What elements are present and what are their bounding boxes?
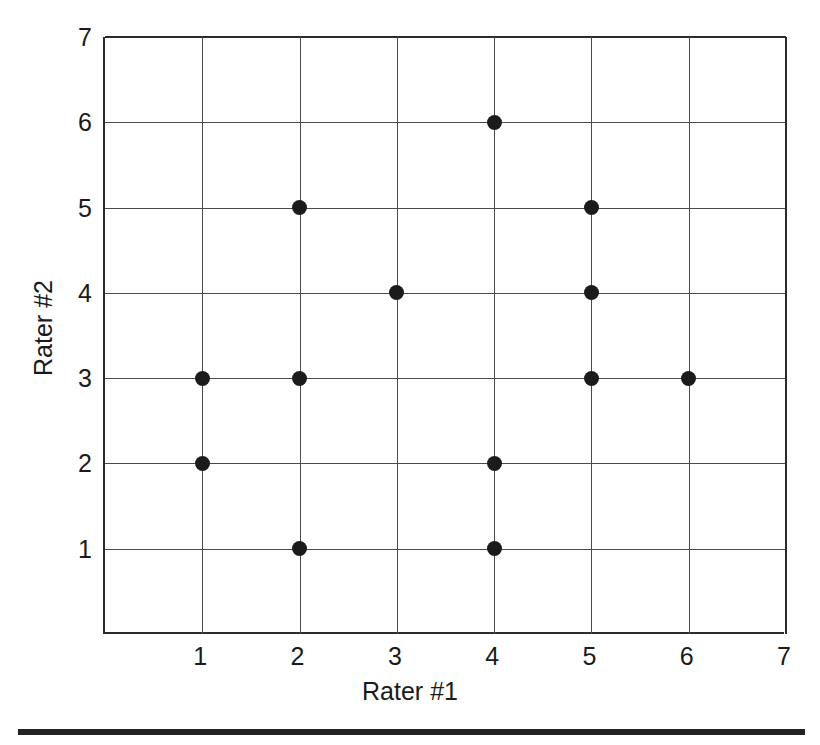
gridline-horizontal [105,122,786,123]
x-tick-label: 1 [180,641,220,671]
x-tick-label: 6 [667,641,707,671]
x-tick-label: 4 [472,641,512,671]
gridline-horizontal [105,208,786,209]
data-point [292,541,307,556]
data-point [389,285,404,300]
x-axis-title: Rater #1 [0,677,820,706]
data-point [487,456,502,471]
gridline-vertical [202,37,203,634]
data-point [195,371,210,386]
y-axis-title-wrap: Rater #2 [26,178,60,478]
gridline-vertical [785,37,787,634]
y-tick-label: 6 [58,107,92,137]
y-axis-title: Rater #2 [29,280,57,376]
y-tick-label: 2 [58,448,92,478]
data-point [292,371,307,386]
data-point [292,200,307,215]
data-point [681,371,696,386]
y-tick-label: 1 [58,534,92,564]
x-tick-label: 5 [569,641,609,671]
x-tick-label: 3 [375,641,415,671]
data-point [584,371,599,386]
gridline-horizontal [105,549,786,550]
data-point [584,285,599,300]
plot-area [103,37,784,634]
gridline-vertical [397,37,398,634]
gridline-horizontal [105,36,786,38]
x-tick-label: 2 [278,641,318,671]
x-tick-label: 7 [764,641,804,671]
data-point [195,456,210,471]
bottom-rule [18,729,805,735]
y-tick-label: 5 [58,193,92,223]
data-point [487,541,502,556]
y-tick-label: 3 [58,363,92,393]
scatter-plot-figure: 1234567 1234567 Rater #1 Rater #2 [0,0,820,745]
data-point [487,115,502,130]
gridline-vertical [591,37,592,634]
y-tick-label: 4 [58,278,92,308]
gridline-vertical [689,37,690,634]
gridline-horizontal [105,293,786,294]
data-point [584,200,599,215]
y-tick-label: 7 [58,22,92,52]
